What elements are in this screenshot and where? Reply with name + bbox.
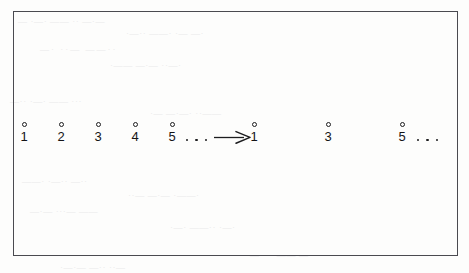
source-node-label: 4 (127, 130, 143, 143)
source-ellipsis (186, 139, 207, 141)
source-node-label: 2 (53, 130, 69, 143)
source-node-2: 2 (53, 122, 69, 143)
source-node-1: 1 (16, 122, 32, 143)
target-node-label: 1 (246, 130, 262, 143)
hollow-circle-icon (400, 122, 405, 127)
source-node-label: 3 (90, 130, 106, 143)
bleed-through-text: ·—·— —·· ··— (60, 262, 126, 272)
ellipsis-dot (205, 139, 207, 141)
ellipsis-dot (186, 139, 188, 141)
ellipsis-dot (417, 139, 419, 141)
hollow-circle-icon (96, 122, 101, 127)
hollow-circle-icon (170, 122, 175, 127)
source-node-4: 4 (127, 122, 143, 143)
target-ellipsis (417, 139, 438, 141)
source-node-label: 5 (164, 130, 180, 143)
target-node-1: 1 (246, 122, 262, 143)
figure-frame: 1 2 3 4 5 (13, 11, 458, 256)
target-node-label: 5 (394, 130, 410, 143)
scanned-figure-page: — ·—· —— ·· —·— ·—·· ——· ·— —· —· ··— ——… (0, 0, 469, 273)
ellipsis-dot (195, 139, 197, 141)
target-node-3: 3 (320, 122, 336, 143)
ellipsis-dot (426, 139, 428, 141)
ellipsis-dot (436, 139, 438, 141)
hollow-circle-icon (326, 122, 331, 127)
source-node-label: 1 (16, 130, 32, 143)
hollow-circle-icon (252, 122, 257, 127)
target-node-label: 3 (320, 130, 336, 143)
target-node-5: 5 (394, 122, 410, 143)
hollow-circle-icon (133, 122, 138, 127)
hollow-circle-icon (22, 122, 27, 127)
source-node-3: 3 (90, 122, 106, 143)
source-node-5: 5 (164, 122, 180, 143)
hollow-circle-icon (59, 122, 64, 127)
